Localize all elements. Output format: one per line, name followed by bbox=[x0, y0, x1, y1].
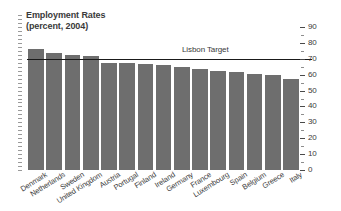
y-tick-minor-15 bbox=[301, 146, 304, 147]
y-tick-label-90: 90 bbox=[308, 22, 317, 31]
left-minor-tick bbox=[18, 138, 22, 139]
left-minor-tick bbox=[18, 47, 22, 48]
y-tick-minor-75 bbox=[301, 51, 304, 52]
bar-slot bbox=[63, 27, 81, 170]
lisbon-target-line bbox=[27, 59, 312, 60]
left-minor-tick bbox=[18, 75, 22, 76]
left-minor-tick bbox=[18, 158, 22, 159]
y-tick-label-20: 20 bbox=[308, 133, 317, 142]
y-tick-30 bbox=[300, 122, 305, 123]
employment-rates-chart: Employment Rates (percent, 2004) Lisbon … bbox=[0, 0, 341, 211]
y-tick-minor-55 bbox=[301, 83, 304, 84]
bar-slot bbox=[282, 27, 300, 170]
bar-finland bbox=[138, 64, 154, 170]
y-tick-70 bbox=[300, 59, 305, 60]
left-minor-tick bbox=[18, 118, 22, 119]
left-minor-tick bbox=[18, 31, 22, 32]
bar-austria bbox=[101, 63, 117, 170]
left-minor-tick bbox=[18, 162, 22, 163]
left-minor-tick bbox=[18, 19, 22, 20]
bar-sweden bbox=[65, 55, 81, 170]
y-tick-0 bbox=[300, 170, 305, 171]
y-tick-minor-25 bbox=[301, 130, 304, 131]
left-minor-tick bbox=[18, 110, 22, 111]
y-tick-20 bbox=[300, 138, 305, 139]
bar-italy bbox=[283, 79, 299, 170]
y-tick-minor-35 bbox=[301, 114, 304, 115]
left-minor-tick bbox=[18, 27, 22, 28]
left-minor-tick bbox=[18, 87, 22, 88]
bar-series bbox=[27, 27, 300, 170]
bar-slot bbox=[154, 27, 172, 170]
y-axis-right: 0102030405060708090 bbox=[300, 0, 341, 211]
bar-france bbox=[192, 69, 208, 170]
plot-area bbox=[27, 27, 300, 170]
left-minor-tick bbox=[18, 142, 22, 143]
left-minor-tick bbox=[18, 126, 22, 127]
y-tick-minor-65 bbox=[301, 67, 304, 68]
y-tick-label-70: 70 bbox=[308, 54, 317, 63]
y-tick-minor-85 bbox=[301, 35, 304, 36]
y-tick-40 bbox=[300, 106, 305, 107]
y-tick-label-50: 50 bbox=[308, 86, 317, 95]
y-tick-80 bbox=[300, 43, 305, 44]
left-minor-tick bbox=[18, 146, 22, 147]
left-minor-tick bbox=[18, 134, 22, 135]
left-minor-tick bbox=[18, 43, 22, 44]
y-tick-label-40: 40 bbox=[308, 101, 317, 110]
lisbon-target-label: Lisbon Target bbox=[182, 45, 229, 54]
page-title: Employment Rates bbox=[26, 10, 105, 21]
left-minor-tick bbox=[18, 95, 22, 96]
left-minor-tick bbox=[18, 15, 22, 16]
left-minor-tick bbox=[18, 51, 22, 52]
y-tick-label-0: 0 bbox=[308, 165, 312, 174]
y-tick-90 bbox=[300, 27, 305, 28]
left-minor-tick bbox=[18, 150, 22, 151]
bar-luxembourg bbox=[210, 71, 226, 170]
bar-greece bbox=[265, 75, 281, 170]
bar-spain bbox=[229, 72, 245, 170]
left-minor-tick bbox=[18, 63, 22, 64]
bar-slot bbox=[227, 27, 245, 170]
left-minor-tick bbox=[18, 130, 22, 131]
y-tick-minor-5 bbox=[301, 162, 304, 163]
left-minor-tick bbox=[18, 59, 22, 60]
bar-slot bbox=[45, 27, 63, 170]
bar-slot bbox=[82, 27, 100, 170]
left-minor-tick bbox=[18, 170, 22, 171]
y-tick-minor-45 bbox=[301, 99, 304, 100]
y-tick-10 bbox=[300, 154, 305, 155]
left-minor-tick bbox=[18, 114, 22, 115]
left-minor-tick bbox=[18, 166, 22, 167]
bar-slot bbox=[118, 27, 136, 170]
y-tick-label-60: 60 bbox=[308, 70, 317, 79]
bar-netherlands bbox=[46, 53, 62, 170]
bar-slot bbox=[245, 27, 263, 170]
bar-belgium bbox=[247, 74, 263, 170]
y-tick-label-80: 80 bbox=[308, 38, 317, 47]
left-minor-tick bbox=[18, 67, 22, 68]
left-minor-tick bbox=[18, 35, 22, 36]
bar-slot bbox=[264, 27, 282, 170]
left-minor-tick bbox=[18, 71, 22, 72]
y-tick-60 bbox=[300, 75, 305, 76]
left-minor-tick bbox=[18, 106, 22, 107]
bar-slot bbox=[100, 27, 118, 170]
bar-united-kingdom bbox=[83, 56, 99, 170]
bar-denmark bbox=[28, 49, 44, 170]
bar-slot bbox=[27, 27, 45, 170]
left-minor-tick bbox=[18, 102, 22, 103]
left-minor-tick bbox=[18, 39, 22, 40]
y-tick-50 bbox=[300, 91, 305, 92]
left-minor-tick bbox=[18, 79, 22, 80]
y-tick-label-30: 30 bbox=[308, 117, 317, 126]
left-minor-tick bbox=[18, 154, 22, 155]
left-minor-tick bbox=[18, 83, 22, 84]
y-tick-label-10: 10 bbox=[308, 149, 317, 158]
left-minor-tick bbox=[18, 99, 22, 100]
bar-germany bbox=[174, 67, 190, 170]
left-minor-tick bbox=[18, 55, 22, 56]
left-minor-tick bbox=[18, 122, 22, 123]
bar-ireland bbox=[156, 65, 172, 170]
bar-slot bbox=[136, 27, 154, 170]
